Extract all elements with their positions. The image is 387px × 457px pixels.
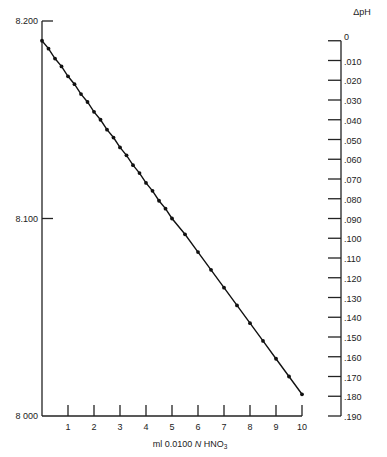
delta-ph-tick-label: 0	[344, 32, 349, 42]
x-axis-label: ml 0.0100 N HNO3	[153, 439, 228, 450]
data-point	[287, 375, 291, 379]
data-point	[274, 357, 278, 361]
data-point	[183, 232, 187, 236]
delta-ph-axis: 0.010.020.030.040.050.060.070.080.090.10…	[328, 32, 362, 422]
data-point	[92, 110, 96, 114]
data-point	[79, 92, 83, 96]
delta-ph-tick-label: .160	[344, 353, 362, 363]
delta-ph-tick-label: .060	[344, 155, 362, 165]
data-point	[131, 163, 135, 167]
data-point	[196, 250, 200, 254]
data-point	[151, 189, 155, 193]
y-tick-label: 8.100	[15, 214, 38, 224]
data-point	[73, 82, 77, 86]
delta-ph-label: ΔpH	[353, 7, 371, 17]
data-point	[144, 181, 148, 185]
data-point	[157, 199, 161, 203]
delta-ph-tick-label: .180	[344, 392, 362, 402]
delta-ph-tick-label: .050	[344, 136, 362, 146]
data-point	[112, 136, 116, 140]
delta-ph-tick-label: .030	[344, 96, 362, 106]
data-point	[66, 74, 70, 78]
x-tick-label: 5	[169, 422, 174, 432]
x-tick-label: 8	[247, 422, 252, 432]
data-point	[300, 392, 304, 396]
data-point	[60, 65, 64, 69]
data-point	[261, 339, 265, 343]
delta-ph-tick-label: .190	[344, 412, 362, 422]
data-point	[118, 146, 122, 150]
delta-ph-tick-label: .140	[344, 313, 362, 323]
data-point	[105, 128, 109, 132]
data-point	[99, 118, 103, 122]
x-tick-label: 9	[273, 422, 278, 432]
primary-axes: 8.2008.1008 00012345678910	[15, 16, 307, 432]
delta-ph-tick-label: .070	[344, 175, 362, 185]
data-point	[40, 39, 44, 43]
titration-chart: 8.2008.1008 00012345678910 0.010.020.030…	[0, 0, 387, 457]
data-point	[125, 153, 129, 157]
y-tick-label: 8.200	[15, 16, 38, 26]
delta-ph-tick-label: .120	[344, 274, 362, 284]
delta-ph-tick-label: .170	[344, 373, 362, 383]
delta-ph-tick-label: .090	[344, 215, 362, 225]
delta-ph-tick-label: .040	[344, 116, 362, 126]
y-tick-label: 8 000	[15, 411, 38, 421]
data-point	[138, 171, 142, 175]
delta-ph-tick-label: .100	[344, 234, 362, 244]
x-tick-label: 10	[297, 422, 307, 432]
delta-ph-tick-label: .020	[344, 76, 362, 86]
delta-ph-tick-label: .080	[344, 195, 362, 205]
x-tick-label: 3	[117, 422, 122, 432]
data-point	[47, 47, 51, 51]
data-point	[209, 268, 213, 272]
data-point	[170, 217, 174, 221]
data-point	[248, 321, 252, 325]
data-series	[40, 39, 304, 396]
delta-ph-tick-label: .150	[344, 333, 362, 343]
data-point	[164, 207, 168, 211]
x-tick-label: 1	[65, 422, 70, 432]
x-tick-label: 7	[221, 422, 226, 432]
delta-ph-tick-label: .010	[344, 57, 362, 67]
data-point	[53, 57, 57, 61]
data-point	[222, 286, 226, 290]
delta-ph-tick-label: .130	[344, 294, 362, 304]
x-tick-label: 2	[91, 422, 96, 432]
data-point	[86, 100, 90, 104]
x-tick-label: 4	[143, 422, 148, 432]
data-point	[235, 304, 239, 308]
delta-ph-tick-label: .110	[344, 254, 361, 264]
x-tick-label: 6	[195, 422, 200, 432]
